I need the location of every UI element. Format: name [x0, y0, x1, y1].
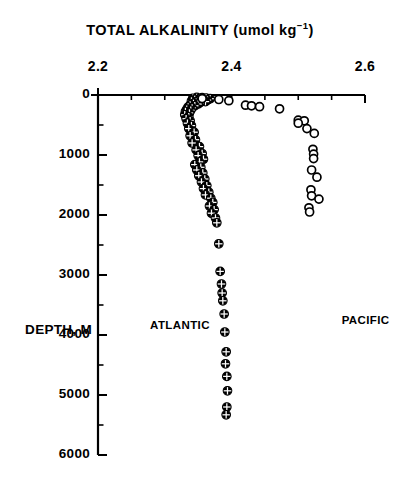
marker-pacific	[215, 96, 223, 104]
marker-pacific	[303, 125, 311, 133]
chart-figure: TOTAL ALKALINITY (umol kg−1) 2.22.42.6 0…	[0, 0, 400, 481]
y-tick-label: 3000	[30, 266, 90, 281]
marker-pacific	[198, 95, 206, 103]
x-tick-label: 2.4	[209, 58, 255, 74]
marker-atlantic	[223, 387, 232, 396]
annotation-pacific: PACIFIC	[342, 314, 390, 326]
marker-pacific	[294, 119, 302, 127]
marker-atlantic	[221, 328, 230, 337]
marker-atlantic	[223, 372, 232, 381]
y-tick-label: 1000	[30, 146, 90, 161]
y-tick-label: 0	[30, 86, 90, 101]
y-tick-label: 5000	[30, 386, 90, 401]
marker-pacific	[248, 102, 256, 110]
data-points	[180, 93, 322, 419]
marker-pacific	[310, 155, 318, 163]
marker-atlantic	[222, 348, 231, 357]
marker-pacific	[306, 208, 314, 216]
x-tick-label: 2.6	[342, 58, 388, 74]
annotation-atlantic: ATLANTIC	[150, 319, 210, 331]
series-pacific	[198, 95, 323, 216]
marker-pacific	[315, 195, 323, 203]
marker-atlantic	[215, 240, 224, 249]
marker-atlantic	[217, 280, 226, 289]
series-atlantic	[180, 93, 231, 419]
marker-atlantic	[213, 219, 222, 228]
y-tick-label: 2000	[30, 206, 90, 221]
y-axis-label: DEPTH, M	[6, 322, 92, 337]
marker-atlantic	[222, 411, 231, 420]
axes	[91, 88, 365, 455]
marker-pacific	[256, 103, 264, 111]
marker-atlantic	[220, 310, 229, 319]
marker-pacific	[313, 173, 321, 181]
y-tick-label: 6000	[30, 446, 90, 461]
x-tick-label: 2.2	[75, 58, 121, 74]
marker-pacific	[310, 129, 318, 137]
marker-atlantic	[219, 297, 228, 306]
marker-pacific	[225, 97, 233, 105]
marker-pacific	[276, 105, 284, 113]
plot-area	[0, 0, 400, 481]
marker-atlantic	[221, 360, 230, 369]
marker-pacific	[308, 166, 316, 174]
marker-atlantic	[216, 267, 225, 276]
